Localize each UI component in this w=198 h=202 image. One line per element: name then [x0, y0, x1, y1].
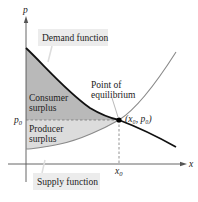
demand-callout-pointer	[48, 46, 52, 62]
supply-callout-pointer	[42, 160, 45, 173]
y-axis-label: p	[22, 5, 28, 15]
supply-demand-diagram: Demand function Supply function Point of…	[0, 0, 198, 202]
consumer-surplus-label-line1: Consumer	[29, 93, 69, 103]
equilibrium-callout-pointer	[112, 98, 118, 117]
x-axis-label: x	[188, 159, 194, 169]
x0-tick-label: x0	[114, 166, 123, 177]
equilibrium-point	[116, 117, 121, 122]
equilibrium-label-line1: Point of	[91, 80, 122, 90]
p0-tick-label: p0	[13, 115, 23, 126]
y-axis-arrow-icon	[24, 16, 28, 23]
producer-surplus-label-line1: Producer	[29, 124, 64, 134]
equilibrium-label-line2: equilibrium	[91, 90, 136, 100]
equilibrium-coordinates: (x₀, p₀)	[125, 114, 152, 125]
x-axis-arrow-icon	[180, 162, 187, 166]
producer-surplus-label-line2: surplus	[29, 134, 57, 144]
consumer-surplus-label-line2: surplus	[29, 103, 57, 113]
supply-function-label: Supply function	[37, 177, 98, 187]
demand-function-label: Demand function	[42, 33, 108, 43]
